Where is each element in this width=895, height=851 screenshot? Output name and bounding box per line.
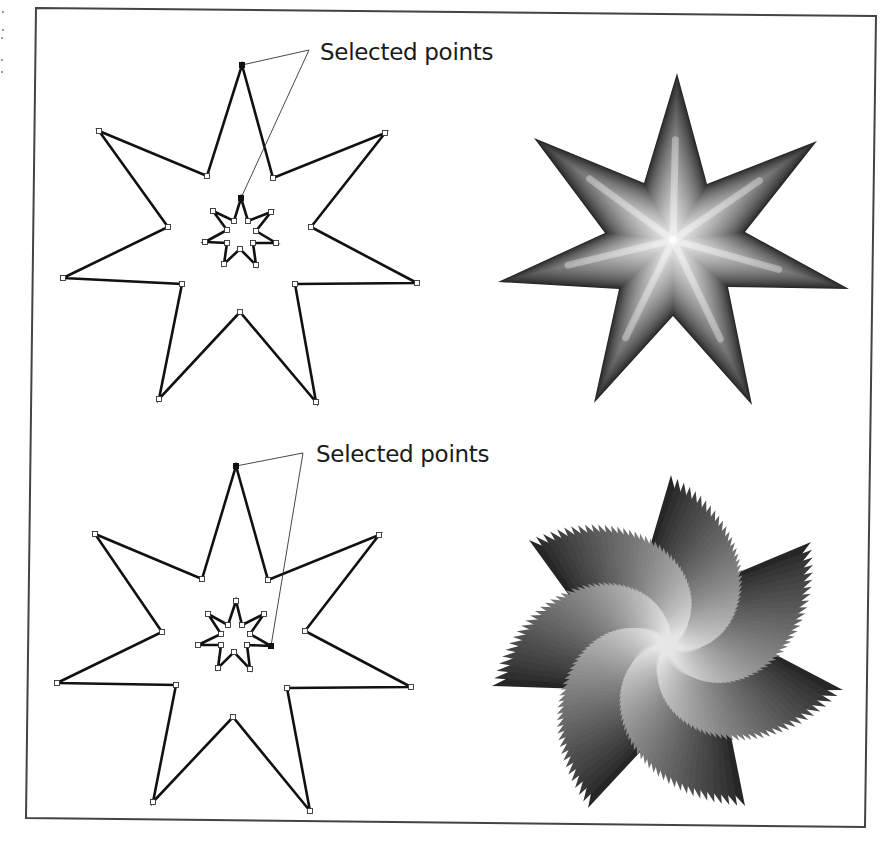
callout-leader-line (236, 453, 303, 646)
anchor-point[interactable] (383, 131, 388, 136)
anchor-point[interactable] (174, 683, 179, 688)
anchor-point[interactable] (205, 174, 210, 179)
anchor-point[interactable] (254, 263, 259, 268)
anchor-point[interactable] (274, 241, 279, 246)
anchor-point[interactable] (269, 210, 274, 215)
anchor-point[interactable] (231, 715, 236, 720)
anchor-point[interactable] (415, 281, 420, 286)
margin-mark (1, 71, 3, 73)
anchor-point-handles[interactable] (55, 464, 414, 814)
anchor-point[interactable] (216, 666, 221, 671)
margin-mark (2, 11, 4, 13)
anchor-point[interactable] (93, 532, 98, 537)
anchor-point[interactable] (271, 176, 276, 181)
anchor-point[interactable] (219, 632, 224, 637)
selected-anchor-point[interactable] (234, 464, 239, 469)
figure-canvas: Selected points Selected points (0, 0, 895, 851)
anchor-point[interactable] (245, 643, 250, 648)
anchor-point[interactable] (240, 623, 245, 628)
blend-ridge (673, 140, 675, 240)
anchor-point[interactable] (232, 650, 237, 655)
anchor-point[interactable] (219, 643, 224, 648)
panel-top: Selected points (61, 39, 850, 405)
anchor-point[interactable] (303, 629, 308, 634)
anchor-point[interactable] (377, 533, 382, 538)
anchor-point[interactable] (238, 310, 243, 315)
anchor-point[interactable] (251, 241, 256, 246)
selected-anchor-point[interactable] (239, 196, 244, 201)
outer-star-outline[interactable] (63, 65, 417, 402)
anchor-point[interactable] (254, 229, 259, 234)
margin-mark (1, 37, 3, 39)
margin-mark (1, 59, 3, 61)
anchor-point-handles[interactable] (61, 63, 420, 405)
anchor-point[interactable] (225, 228, 230, 233)
anchor-point[interactable] (308, 809, 313, 814)
anchor-point[interactable] (266, 578, 271, 583)
anchor-point[interactable] (248, 667, 253, 672)
panel-bottom: Selected points (55, 441, 844, 814)
anchor-point[interactable] (232, 219, 237, 224)
anchor-point[interactable] (285, 686, 290, 691)
anchor-point[interactable] (200, 577, 205, 582)
selected-anchor-point[interactable] (240, 63, 245, 68)
caption-selected-points: Selected points (316, 441, 489, 467)
anchor-point[interactable] (196, 643, 201, 648)
margin-marks (1, 11, 4, 73)
anchor-point[interactable] (225, 241, 230, 246)
anchor-point[interactable] (314, 400, 319, 405)
anchor-point[interactable] (151, 800, 156, 805)
anchor-point[interactable] (234, 599, 239, 604)
anchor-point[interactable] (309, 225, 314, 230)
outer-star-outline[interactable] (57, 466, 411, 811)
anchor-point[interactable] (61, 276, 66, 281)
anchor-point[interactable] (248, 632, 253, 637)
caption-selected-points: Selected points (320, 39, 493, 65)
anchor-point[interactable] (55, 681, 60, 686)
anchor-point[interactable] (203, 240, 208, 245)
blended-star-radial (498, 73, 849, 405)
anchor-point[interactable] (226, 623, 231, 628)
anchor-point[interactable] (238, 247, 243, 252)
anchor-point[interactable] (293, 282, 298, 287)
anchor-point[interactable] (246, 219, 251, 224)
anchor-point[interactable] (157, 397, 162, 402)
anchor-point[interactable] (222, 262, 227, 267)
anchor-point[interactable] (262, 612, 267, 617)
anchor-point[interactable] (180, 282, 185, 287)
anchor-point[interactable] (206, 612, 211, 617)
anchor-point[interactable] (97, 129, 102, 134)
anchor-point[interactable] (160, 630, 165, 635)
margin-mark (2, 29, 4, 31)
selected-anchor-point[interactable] (269, 644, 274, 649)
anchor-point[interactable] (211, 209, 216, 214)
anchor-point[interactable] (166, 225, 171, 230)
blended-star-twisted (492, 475, 843, 808)
anchor-point[interactable] (409, 685, 414, 690)
